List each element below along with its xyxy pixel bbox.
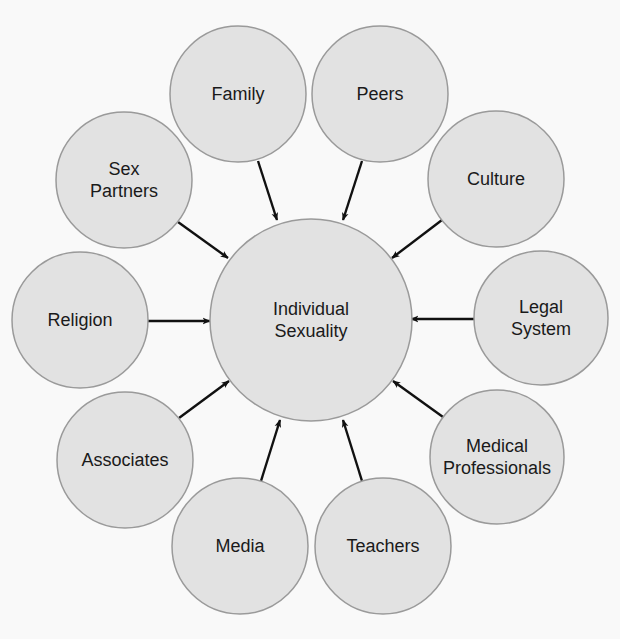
node-circle [56, 112, 192, 248]
node-label: Religion [47, 310, 112, 330]
node-label: Legal [519, 297, 563, 317]
arrow-teachers-to-center [343, 420, 362, 481]
arrow-medical-professionals-to-center [393, 381, 443, 417]
node-label: Culture [467, 169, 525, 189]
node-circle [430, 390, 564, 524]
node-label: Sexuality [274, 321, 347, 341]
node-label: Media [215, 536, 265, 556]
node-label: System [511, 319, 571, 339]
node-teachers: Teachers [315, 478, 451, 614]
node-medical-professionals: MedicalProfessionals [430, 390, 564, 524]
arrow-media-to-center [261, 420, 280, 481]
influence-diagram: FamilyPeersCultureLegalSystemMedicalProf… [0, 0, 620, 639]
node-label: Professionals [443, 458, 551, 478]
node-legal-system: LegalSystem [474, 251, 608, 385]
node-label: Family [212, 84, 265, 104]
node-sex-partners: SexPartners [56, 112, 192, 248]
node-religion: Religion [12, 252, 148, 388]
node-label: Peers [356, 84, 403, 104]
arrow-sex-partners-to-center [178, 222, 228, 258]
node-family: Family [170, 26, 306, 162]
node-associates: Associates [57, 392, 193, 528]
nodes-layer: FamilyPeersCultureLegalSystemMedicalProf… [12, 26, 608, 614]
node-label: Associates [81, 450, 168, 470]
arrow-associates-to-center [179, 381, 229, 418]
node-label: Medical [466, 436, 528, 456]
node-label: Partners [90, 181, 158, 201]
node-label: Teachers [346, 536, 419, 556]
node-label: Individual [273, 299, 349, 319]
node-media: Media [172, 478, 308, 614]
node-peers: Peers [312, 26, 448, 162]
node-individual-sexuality: IndividualSexuality [210, 219, 412, 421]
arrow-peers-to-center [343, 161, 362, 220]
node-culture: Culture [428, 111, 564, 247]
node-circle [474, 251, 608, 385]
node-circle [210, 219, 412, 421]
arrow-family-to-center [258, 161, 277, 220]
arrow-culture-to-center [392, 220, 442, 258]
node-label: Sex [108, 159, 139, 179]
